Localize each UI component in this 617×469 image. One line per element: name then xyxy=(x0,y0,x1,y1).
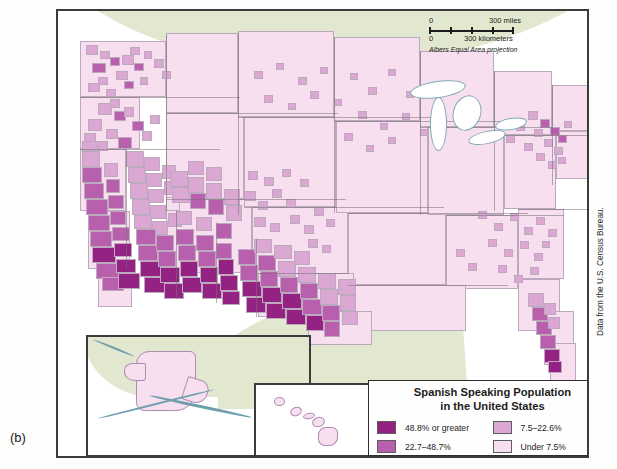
county-cell xyxy=(148,189,164,203)
state-boundary xyxy=(334,37,335,213)
county-cell xyxy=(348,213,446,285)
county-cell xyxy=(318,273,336,289)
state-boundary xyxy=(334,121,524,122)
county-cell xyxy=(178,245,196,261)
state-boundary xyxy=(518,209,589,210)
county-cell xyxy=(106,179,120,193)
county-cell xyxy=(322,305,340,321)
county-cell xyxy=(244,117,336,207)
county-cell xyxy=(154,59,164,68)
county-cell xyxy=(564,121,572,128)
county-cell xyxy=(520,241,529,249)
county-cell xyxy=(322,245,331,253)
legend-label-22-to-48: 22.7–48.7% xyxy=(405,442,451,452)
county-cell xyxy=(150,115,160,124)
county-cell xyxy=(150,205,166,219)
county-cell xyxy=(110,99,120,108)
county-cell xyxy=(130,47,140,55)
county-cell xyxy=(310,91,319,99)
county-cell xyxy=(308,239,318,248)
state-boundary xyxy=(258,273,348,274)
county-cell xyxy=(166,33,238,113)
scale-bar: 0 300 miles 0 300 kilometers Albers Equa… xyxy=(429,16,547,53)
county-cell xyxy=(136,229,156,245)
county-cell xyxy=(290,215,300,224)
county-cell xyxy=(160,267,180,283)
legend-swatch-22-to-48 xyxy=(377,440,396,453)
state-boundary xyxy=(176,211,177,299)
county-cell xyxy=(156,235,174,251)
county-cell xyxy=(264,95,273,103)
map-frame: 0 300 miles 0 300 kilometers Albers Equa… xyxy=(56,9,589,458)
county-cell xyxy=(554,147,563,155)
scale-km-max: 300 kilometers xyxy=(464,34,513,43)
county-cell xyxy=(300,179,309,187)
county-cell xyxy=(242,281,262,297)
scale-tick-0 xyxy=(429,27,431,34)
county-cell xyxy=(326,219,335,227)
legend-item-7-to-22: 7.5–22.6% xyxy=(493,418,590,437)
county-cell xyxy=(350,73,358,80)
county-cell xyxy=(220,275,238,291)
state-boundary xyxy=(166,35,167,211)
county-cell xyxy=(86,199,108,215)
county-cell xyxy=(188,161,204,175)
county-cell xyxy=(270,223,280,232)
county-cell xyxy=(92,247,116,263)
county-cell xyxy=(138,245,158,261)
scale-bar-graphic xyxy=(429,27,547,34)
county-cell xyxy=(536,217,545,225)
county-cell xyxy=(534,253,543,261)
county-cell xyxy=(302,299,322,315)
county-cell xyxy=(254,71,263,79)
county-cell xyxy=(196,217,212,231)
state-boundary xyxy=(166,199,346,200)
county-cell xyxy=(280,277,298,293)
scale-km-row: 0 300 kilometers xyxy=(429,34,547,45)
county-cell xyxy=(206,183,222,199)
county-cell xyxy=(264,177,274,186)
county-cell xyxy=(222,291,240,305)
county-cell xyxy=(176,211,192,225)
county-cell xyxy=(366,145,374,152)
county-cell xyxy=(282,169,291,177)
state-boundary xyxy=(166,113,338,114)
legend-item-48-or-greater: 48.8% or greater xyxy=(377,418,493,437)
county-cell xyxy=(144,157,160,171)
county-cell xyxy=(106,89,116,97)
county-cell xyxy=(88,215,110,231)
county-cell xyxy=(146,173,162,187)
scale-miles-zero: 0 xyxy=(429,16,433,25)
county-cell xyxy=(504,249,513,257)
county-cell xyxy=(320,67,328,74)
county-cell xyxy=(198,251,216,267)
county-cell xyxy=(334,99,342,106)
county-cell xyxy=(88,119,102,131)
county-cell xyxy=(86,45,98,55)
legend-item-under-7: Under 7.5% xyxy=(493,437,590,456)
county-cell xyxy=(380,123,388,130)
county-cell xyxy=(134,63,144,71)
county-cell xyxy=(272,189,282,198)
county-cell xyxy=(304,225,314,234)
county-cell xyxy=(300,283,318,299)
scale-tick-1 xyxy=(450,27,452,34)
county-cell xyxy=(282,293,302,309)
county-cell xyxy=(118,137,132,149)
county-cell xyxy=(548,317,560,329)
county-cell xyxy=(468,263,477,271)
county-cell xyxy=(298,267,316,283)
county-cell xyxy=(524,143,533,151)
alaska-seward-peninsula xyxy=(124,363,146,381)
legend-title: Spanish Speaking Population in the Unite… xyxy=(377,386,589,413)
county-cell xyxy=(420,129,428,136)
hawaii-big-island xyxy=(318,427,338,446)
county-cell xyxy=(82,167,102,183)
county-cell xyxy=(388,137,396,144)
hawaii-oahu xyxy=(289,405,303,418)
county-cell xyxy=(104,163,118,177)
county-cell xyxy=(298,77,307,85)
county-cell xyxy=(216,243,232,259)
state-boundary xyxy=(238,33,239,215)
county-cell xyxy=(536,153,545,161)
